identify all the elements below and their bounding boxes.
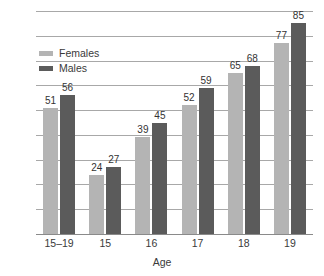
gridline: [36, 160, 313, 161]
bar-males-18: [245, 66, 260, 234]
bar-value-label: 45: [146, 111, 173, 121]
bar-females-15–19: [43, 108, 58, 234]
x-axis-title: Age: [0, 256, 324, 268]
legend-label: Females: [59, 48, 99, 59]
legend-swatch-icon: [39, 66, 53, 71]
x-axis-tick-label: 17: [175, 238, 221, 249]
bar-males-15–19: [60, 95, 75, 234]
gridline: [36, 11, 313, 12]
bar-females-19: [274, 43, 289, 234]
bar-value-label: 85: [285, 11, 312, 21]
bar-value-label: 51: [37, 96, 64, 106]
bar-males-19: [291, 23, 306, 234]
gridline: [36, 135, 313, 136]
x-axis-tick-label: 18: [221, 238, 267, 249]
bar-value-label: 68: [239, 54, 266, 64]
bar-females-16: [135, 137, 150, 234]
bar-females-18: [228, 73, 243, 234]
bar-males-15: [106, 167, 121, 234]
plot-area: [36, 11, 313, 234]
bar-females-17: [182, 105, 197, 234]
bar-value-label: 52: [176, 93, 203, 103]
legend-label: Males: [59, 63, 87, 74]
bar-males-16: [152, 123, 167, 235]
gridline: [36, 184, 313, 185]
legend: FemalesMales: [39, 46, 99, 76]
legend-item-males: Males: [39, 61, 99, 76]
bar-chart: 0102030405060708090 51562427394552596568…: [0, 0, 324, 276]
x-axis-tick-label: 19: [267, 238, 313, 249]
gridline: [36, 209, 313, 210]
bar-value-label: 77: [268, 31, 295, 41]
legend-item-females: Females: [39, 46, 99, 61]
bar-value-label: 56: [54, 83, 81, 93]
x-axis-tick-label: 15: [82, 238, 128, 249]
bar-value-label: 39: [129, 125, 156, 135]
gridline: [36, 234, 313, 235]
bar-males-17: [199, 88, 214, 234]
x-axis-tick-label: 15–19: [36, 238, 82, 249]
bar-value-label: 59: [193, 76, 220, 86]
bar-females-15: [89, 175, 104, 234]
bar-value-label: 27: [100, 155, 127, 165]
legend-swatch-icon: [39, 51, 53, 56]
gridline: [36, 110, 313, 111]
x-axis-tick-label: 16: [128, 238, 174, 249]
